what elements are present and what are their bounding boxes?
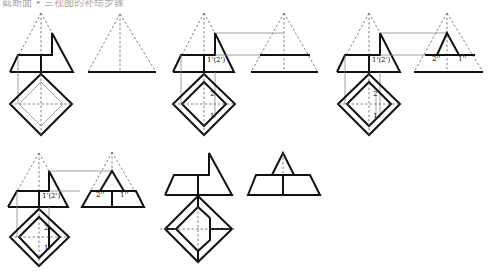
label-side-point-1-p4: 1'' [120,191,128,199]
front-view [165,153,232,195]
label-side-point-1-p3: 1'' [458,55,466,63]
label-front-point-p4: 1'(2') [42,192,60,200]
panel-step-5-result [160,153,320,262]
label-front-point-p3: 1'(2') [372,56,390,64]
panel-step-4 [8,152,144,266]
side-view [82,152,144,207]
label-top-point-1-p3: 1 [373,112,377,120]
panel-step-3 [337,13,483,135]
side-view [414,13,483,72]
side-view [251,13,318,72]
top-view [160,196,236,262]
side-view [248,153,320,195]
label-top-point-1-p2: 1 [210,112,214,120]
label-top-point-2-p4: 2 [44,224,48,232]
panel-step-1 [10,13,156,135]
panel-step-2 [173,13,318,135]
label-top-point-2-p3: 2 [373,90,377,98]
label-top-point-2-p2: 2 [210,90,214,98]
label-side-point-2-p3: 2'' [432,55,440,63]
front-view [10,13,73,72]
label-top-point-1-p4: 1 [44,244,48,252]
label-front-point-p2: 1'(2') [207,56,225,64]
side-view [88,14,156,72]
label-side-point-2-p4: 2'' [96,191,104,199]
truncated-pyramid-three-view-diagram: 1'(2') 2 1 1'(2') 2 1 2'' 1'' 1'(2') 2 1… [0,0,493,273]
